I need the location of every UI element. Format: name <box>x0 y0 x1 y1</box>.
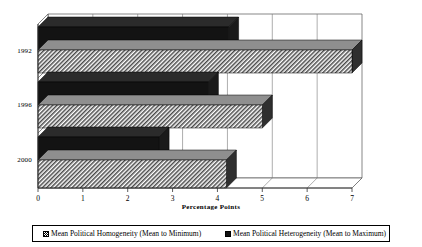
x-tick-label-3: 3 <box>166 194 180 203</box>
bar-2000-homogeneity[interactable] <box>38 150 236 188</box>
chart-legend: Mean Political Homogeneity (Mean to Mini… <box>32 225 390 242</box>
y-axis-label-2000: 2000 <box>2 156 32 164</box>
legend-item-homogeneity[interactable]: Mean Political Homogeneity (Mean to Mini… <box>43 229 201 238</box>
y-axis-label-1992: 1992 <box>2 47 32 55</box>
chart-container: 1992 1996 2000 0 1 2 3 4 5 6 7 Percentag… <box>0 0 422 247</box>
x-tick-label-5: 5 <box>255 194 269 203</box>
bar-1992-homogeneity[interactable] <box>38 40 362 73</box>
y-axis-label-1996: 1996 <box>2 101 32 109</box>
x-tick-label-2: 2 <box>121 194 135 203</box>
legend-label-heterogeneity: Mean Political Heterogeneity (Mean to Ma… <box>233 229 386 238</box>
bar-1996-homogeneity[interactable] <box>38 95 272 128</box>
x-tick-label-7: 7 <box>345 194 359 203</box>
x-tick-label-0: 0 <box>31 194 45 203</box>
filled-square-icon <box>225 231 231 237</box>
x-tick-label-1: 1 <box>76 194 90 203</box>
chart-x-ticks <box>38 188 352 192</box>
legend-label-homogeneity: Mean Political Homogeneity (Mean to Mini… <box>51 229 201 238</box>
hatched-square-icon <box>43 231 49 237</box>
legend-item-heterogeneity[interactable]: Mean Political Heterogeneity (Mean to Ma… <box>225 229 386 238</box>
x-tick-label-4: 4 <box>210 194 224 203</box>
x-axis-title: Percentage Points <box>0 203 422 211</box>
x-tick-label-6: 6 <box>300 194 314 203</box>
